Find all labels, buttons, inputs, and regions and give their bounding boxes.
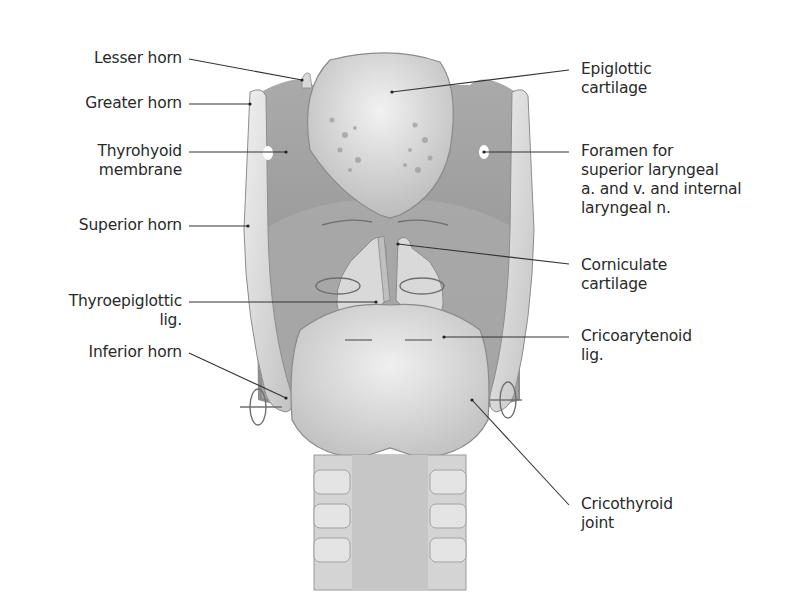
label-lesser-horn: Lesser horn: [94, 49, 182, 68]
label-cricoarytenoid-lig: Cricoarytenoid lig.: [581, 327, 692, 365]
cricoid-shape: [291, 304, 489, 458]
label-foramen: Foramen for superior laryngeal a. and v.…: [581, 142, 741, 218]
label-greater-horn: Greater horn: [85, 94, 182, 113]
label-epiglottic-cartilage: Epiglottic cartilage: [581, 60, 652, 98]
label-thyrohyoid-membrane: Thyrohyoid membrane: [97, 142, 182, 180]
label-inferior-horn: Inferior horn: [89, 343, 182, 362]
label-cricothyroid-joint: Cricothyroid joint: [581, 495, 673, 533]
label-superior-horn: Superior horn: [79, 216, 182, 235]
label-corniculate-cartilage: Corniculate cartilage: [581, 256, 667, 294]
label-thyroepiglottic-lig: Thyroepiglottic lig.: [69, 292, 182, 330]
